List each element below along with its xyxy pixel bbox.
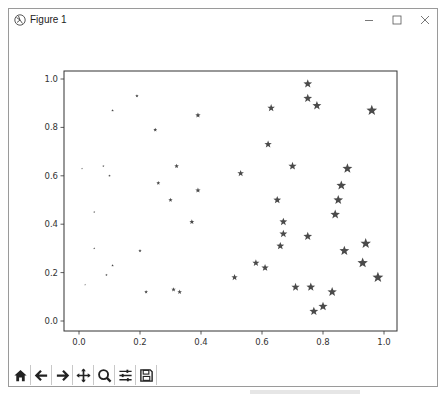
configure-subplots-button[interactable]: [116, 365, 136, 385]
back-button[interactable]: [32, 365, 52, 385]
pan-button[interactable]: [74, 365, 94, 385]
x-tick-label: 0.4: [194, 337, 208, 347]
x-tick-label: 0.6: [255, 337, 269, 347]
move-icon: [76, 368, 91, 383]
axes-frame: [64, 71, 397, 331]
y-tick-label: 1.0: [44, 74, 58, 84]
window-title: Figure 1: [30, 14, 67, 25]
y-tick-label: 0.8: [44, 122, 58, 132]
forward-button[interactable]: [53, 365, 73, 385]
zoom-button[interactable]: [95, 365, 115, 385]
arrow-right-icon: [55, 368, 70, 383]
maximize-icon: [392, 15, 402, 25]
minimize-icon: [364, 15, 374, 25]
y-tick-label: 0.6: [44, 171, 58, 181]
home-button[interactable]: [11, 365, 31, 385]
arrow-left-icon: [34, 368, 49, 383]
floppy-disk-icon: [139, 368, 154, 383]
save-button[interactable]: [137, 365, 157, 385]
figure-canvas[interactable]: 0.00.20.40.60.81.00.00.20.40.60.81.0: [9, 33, 437, 359]
matplotlib-logo-icon: [14, 14, 26, 26]
navigation-toolbar: [11, 365, 157, 387]
y-tick-label: 0.4: [44, 219, 58, 229]
y-tick-label: 0.2: [44, 268, 58, 278]
sliders-icon: [118, 368, 133, 383]
minimize-button[interactable]: [355, 11, 383, 29]
taskbar-hint: [250, 390, 360, 394]
x-tick-label: 0.8: [316, 337, 330, 347]
title-bar[interactable]: Figure 1: [9, 9, 437, 33]
magnifier-icon: [97, 368, 112, 383]
y-tick-label: 0.0: [44, 316, 58, 326]
x-tick-label: 0.0: [72, 337, 86, 347]
x-tick-label: 0.2: [133, 337, 147, 347]
figure-window: Figure 1 0.00.20.40.60.81.00.00.20.40.60…: [8, 8, 438, 387]
maximize-button[interactable]: [383, 11, 411, 29]
home-icon: [13, 368, 28, 383]
x-tick-label: 1.0: [377, 337, 391, 347]
close-icon: [420, 15, 430, 25]
close-button[interactable]: [411, 11, 439, 29]
